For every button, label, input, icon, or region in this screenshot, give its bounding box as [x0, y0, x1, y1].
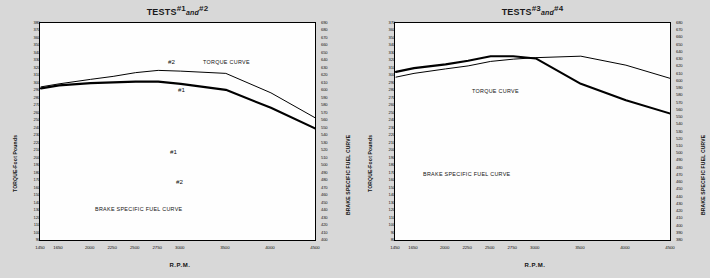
y-tick-label-secondary: 510 — [321, 156, 328, 160]
y-tick-label-secondary: 650 — [676, 43, 683, 47]
y-tick-label-secondary: 600 — [676, 79, 683, 83]
y-tick-label-secondary: 680 — [676, 21, 683, 25]
charts-row: TESTS#1and#2 TORQUE-Foot Pounds BRAKE SP… — [0, 0, 710, 278]
y-tick-label-secondary: 590 — [676, 86, 683, 90]
y-tick-label-secondary: 540 — [321, 133, 328, 137]
x-tick-label: 4000 — [265, 245, 274, 250]
x-tick-label: 2250 — [107, 245, 116, 250]
y-tick-label-secondary: 480 — [321, 178, 328, 182]
y-tick-label-secondary: 570 — [321, 111, 328, 115]
annotation-torque-1-left: #1 — [178, 86, 185, 93]
chart-title-right-prefix: TESTS — [502, 7, 532, 17]
y-tick-label-secondary: 440 — [676, 195, 683, 199]
x-tick-label: 1650 — [408, 245, 417, 250]
y-tick-label-secondary: 410 — [676, 216, 683, 220]
y-tick-label-secondary: 550 — [676, 115, 683, 119]
x-tick-label: 2000 — [440, 245, 449, 250]
annotation-torque-curve-right: TORQUE CURVE — [472, 88, 519, 94]
chart-title-right: TESTS#3and#4 — [355, 4, 710, 17]
y-tick-label-secondary: 420 — [321, 223, 328, 227]
y-tick-label-secondary: 670 — [676, 28, 683, 32]
y-tick-label-secondary: 510 — [676, 144, 683, 148]
x-tick-label: 2500 — [485, 245, 494, 250]
x-tick-label: 2500 — [130, 245, 139, 250]
chart-title-left: TESTS#1and#2 — [0, 4, 355, 17]
y-tick-label-secondary: 590 — [321, 96, 328, 100]
y-tick-label-secondary: 630 — [321, 66, 328, 70]
x-tick-label: 2750 — [508, 245, 517, 250]
x-tick-label: 3500 — [220, 245, 229, 250]
y-tick-label-secondary: 450 — [321, 201, 328, 205]
y-tick-label-secondary: 460 — [676, 180, 683, 184]
y-tick-label-secondary: 450 — [676, 187, 683, 191]
y-axis-title-left-primary: TORQUE-Foot Pounds — [12, 135, 18, 192]
y-tick-label-secondary: 680 — [321, 28, 328, 32]
chart-title-left-conj: and — [186, 9, 199, 16]
y-axis-title-right-secondary: BRAKE SPECIFIC FUEL CURVE — [700, 135, 706, 215]
y-tick-label-secondary: 520 — [676, 137, 683, 141]
y-tick-label-secondary: 540 — [676, 122, 683, 126]
y-tick-label-secondary: 550 — [321, 126, 328, 130]
y-tick-label-secondary: 690 — [321, 21, 328, 25]
y-tick-label-secondary: 500 — [676, 151, 683, 155]
x-tick-label: 2000 — [85, 245, 94, 250]
y-tick-label-secondary: 660 — [676, 35, 683, 39]
y-tick-label-secondary: 580 — [321, 103, 328, 107]
y-tick-label-secondary: 490 — [676, 158, 683, 162]
x-tick-label: 1450 — [35, 245, 44, 250]
y-tick-label-secondary: 640 — [676, 50, 683, 54]
y-tick-label-secondary: 470 — [676, 173, 683, 177]
y-tick-label-secondary: 390 — [676, 231, 683, 235]
y-tick-label-secondary: 570 — [676, 101, 683, 105]
y-tick-label-secondary: 470 — [321, 186, 328, 190]
chart-title-left-b: #2 — [199, 4, 208, 13]
x-tick-label: 1450 — [390, 245, 399, 250]
y-tick-label-secondary: 410 — [321, 231, 328, 235]
y-tick-label-secondary: 440 — [321, 208, 328, 212]
annotation-fuel-curve-right: BRAKE SPECIFIC FUEL CURVE — [423, 171, 510, 177]
x-tick-label: 3000 — [530, 245, 539, 250]
series-line-torque-n3 — [396, 56, 671, 114]
y-tick-label-secondary: 640 — [321, 58, 328, 62]
chart-title-right-a: #3 — [532, 4, 541, 13]
chart-title-right-b: #4 — [554, 4, 563, 13]
series-line-torque-n4 — [396, 56, 671, 78]
chart-title-left-a: #1 — [177, 4, 186, 13]
chart-tests-3-and-4: TESTS#3and#4 TORQUE-Foot Pounds BRAKE SP… — [355, 0, 710, 278]
y-tick-label-secondary: 430 — [321, 216, 328, 220]
y-tick-label-secondary: 610 — [676, 72, 683, 76]
annotation-fuel-2-left: #2 — [176, 178, 183, 185]
y-tick-label-secondary: 430 — [676, 202, 683, 206]
y-tick-label-secondary: 460 — [321, 193, 328, 197]
y-tick-label-secondary: 620 — [676, 64, 683, 68]
y-tick-label-secondary: 670 — [321, 36, 328, 40]
chart-title-right-conj: and — [541, 9, 554, 16]
annotation-torque-2-left: #2 — [168, 58, 175, 65]
y-tick-label-secondary: 630 — [676, 57, 683, 61]
y-tick-label-secondary: 530 — [676, 130, 683, 134]
y-axis-title-right-primary: TORQUE-Foot Pounds — [367, 135, 373, 192]
y-tick-label-secondary: 660 — [321, 43, 328, 47]
x-tick-label: 3000 — [175, 245, 184, 250]
chart-title-left-prefix: TESTS — [147, 7, 177, 17]
y-tick-label-secondary: 500 — [321, 163, 328, 167]
x-tick-label: 4500 — [665, 245, 674, 250]
x-tick-label: 4000 — [620, 245, 629, 250]
x-tick-label: 2250 — [462, 245, 471, 250]
y-tick-label-secondary: 520 — [321, 148, 328, 152]
y-tick-label-secondary: 610 — [321, 81, 328, 85]
y-tick-label-secondary: 420 — [676, 209, 683, 213]
y-tick-label-secondary: 530 — [321, 141, 328, 145]
y-tick-label-secondary: 620 — [321, 73, 328, 77]
annotation-fuel-1-left: #1 — [170, 148, 177, 155]
x-axis-title-right: R.P.M. — [515, 262, 555, 268]
y-tick-label-secondary: 400 — [676, 224, 683, 228]
y-tick-label-secondary: 380 — [676, 238, 683, 242]
chart-tests-1-and-2: TESTS#1and#2 TORQUE-Foot Pounds BRAKE SP… — [0, 0, 355, 278]
y-tick-label-secondary: 480 — [676, 166, 683, 170]
x-axis-title-left: R.P.M. — [160, 262, 200, 268]
y-tick-label-secondary: 650 — [321, 51, 328, 55]
x-tick-label: 3500 — [575, 245, 584, 250]
plot-lines-right — [395, 23, 671, 241]
annotation-torque-curve-left: TORQUE CURVE — [203, 59, 250, 65]
